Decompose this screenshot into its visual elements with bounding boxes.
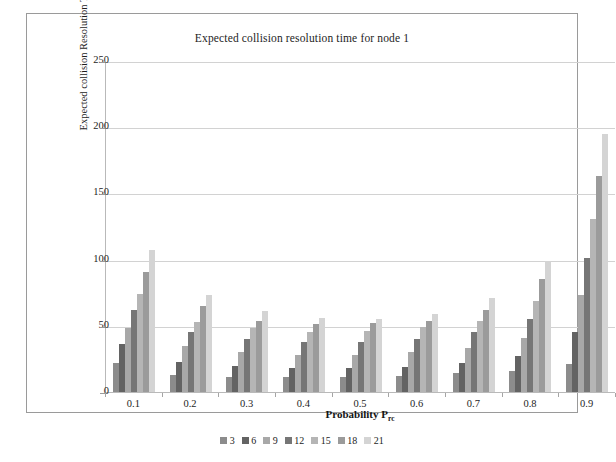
plot-area: 050100150200250 0.10.20.30.40.50.60.70.8… [105, 62, 615, 393]
legend-item-12[interactable]: 12 [285, 435, 305, 446]
bar-groups [106, 62, 615, 392]
legend-label: 18 [347, 435, 357, 446]
legend-item-6[interactable]: 6 [242, 435, 257, 446]
figure-caption [28, 452, 580, 462]
legend-item-21[interactable]: 21 [364, 435, 384, 446]
y-tick-mark [100, 194, 105, 195]
bar-group [219, 62, 276, 392]
bar-group [276, 62, 333, 392]
legend-label: 3 [230, 435, 235, 446]
legend-swatch-icon [364, 437, 371, 444]
legend-item-3[interactable]: 3 [220, 435, 235, 446]
x-tick-mark [388, 393, 389, 397]
legend-item-9[interactable]: 9 [263, 435, 278, 446]
y-tick-mark [100, 261, 105, 262]
x-tick-mark [502, 393, 503, 397]
bar-group [332, 62, 389, 392]
x-axis-title-subscript: rc [388, 414, 395, 423]
legend-item-15[interactable]: 15 [311, 435, 331, 446]
x-tick-mark [218, 393, 219, 397]
x-axis-title-main: Probability P [326, 408, 388, 420]
legend-swatch-icon [263, 437, 270, 444]
bar-group [106, 62, 163, 392]
bar-group [163, 62, 220, 392]
x-tick-mark [445, 393, 446, 397]
legend-swatch-icon [285, 437, 292, 444]
legend-label: 9 [273, 435, 278, 446]
x-axis-line [105, 392, 615, 393]
y-tick-label: 0 [49, 385, 109, 396]
x-axis-title: Probability Prc [105, 408, 615, 423]
bar-21-0.7 [489, 298, 495, 392]
legend-swatch-icon [220, 437, 227, 444]
y-tick-label: 50 [49, 319, 109, 330]
chart-title: Expected collision resolution time for n… [27, 32, 577, 44]
y-axis-title: Expected collision Resolution Time (in M… [78, 0, 89, 148]
bar-21-0.4 [319, 318, 325, 392]
x-tick-mark [162, 393, 163, 397]
y-tick-mark [100, 62, 105, 63]
x-tick-mark [332, 393, 333, 397]
x-tick-mark [105, 393, 106, 397]
legend-item-18[interactable]: 18 [338, 435, 358, 446]
y-tick-label: 150 [49, 186, 109, 197]
bar-group [502, 62, 559, 392]
chart-legend: 36912151821 [27, 435, 577, 446]
legend-label: 15 [321, 435, 331, 446]
y-tick-mark [100, 327, 105, 328]
x-tick-mark [275, 393, 276, 397]
bar-group [445, 62, 502, 392]
legend-swatch-icon [242, 437, 249, 444]
bar-21-0.1 [149, 250, 155, 392]
bar-group [389, 62, 446, 392]
legend-swatch-icon [311, 437, 318, 444]
legend-swatch-icon [338, 437, 345, 444]
bar-21-0.8 [545, 261, 551, 392]
y-tick-label: 100 [49, 253, 109, 264]
y-tick-mark [100, 128, 105, 129]
bar-21-0.6 [432, 314, 438, 392]
x-tick-mark [558, 393, 559, 397]
chart-frame: Expected collision resolution time for n… [26, 13, 578, 413]
bar-21-0.3 [262, 311, 268, 392]
bar-21-0.2 [206, 295, 212, 392]
legend-label: 6 [251, 435, 256, 446]
legend-label: 12 [294, 435, 304, 446]
bar-21-0.5 [376, 319, 382, 392]
legend-label: 21 [374, 435, 384, 446]
bar-group [559, 62, 616, 392]
bar-21-0.9 [602, 134, 608, 392]
